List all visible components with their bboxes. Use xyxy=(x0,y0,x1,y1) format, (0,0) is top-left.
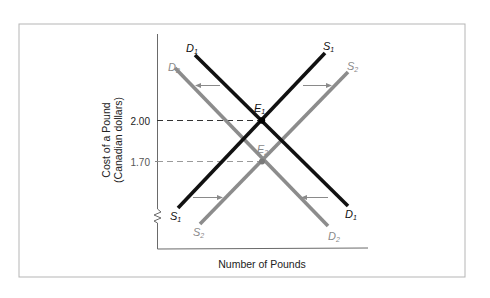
chart-frame xyxy=(19,24,465,277)
label-d2-bottom: D2 xyxy=(328,230,340,243)
label-e2: E2 xyxy=(257,143,268,156)
supply-curve-s2 xyxy=(200,72,348,224)
y-axis-title-line1: Cost of a Pound xyxy=(100,102,112,177)
axis-break-icon xyxy=(154,209,161,223)
tick-label-1-70: 1.70 xyxy=(131,157,151,168)
label-s2-bottom: S2 xyxy=(193,226,204,239)
demand-curve-d2 xyxy=(175,68,328,226)
label-e1: E1 xyxy=(254,102,265,115)
label-d2: D2 xyxy=(168,61,180,74)
axes xyxy=(154,34,368,249)
label-s1-bottom: S1 xyxy=(170,210,181,223)
supply-demand-chart: 2.00 1.70 D1 D2 S1 S2 S1 S2 D1 D2 E1 E2 … xyxy=(0,0,490,298)
label-s2-top: S2 xyxy=(347,60,358,73)
y-axis-title-line2: (Canadian dollars) xyxy=(112,97,124,183)
label-s1-top: S1 xyxy=(323,40,334,53)
supply-curve-s1 xyxy=(178,53,325,208)
demand-curve-d1 xyxy=(195,55,348,206)
tick-label-2-00: 2.00 xyxy=(131,116,151,127)
x-axis-title: Number of Pounds xyxy=(218,258,306,270)
equilibrium-point-e1 xyxy=(259,117,265,123)
label-d1: D1 xyxy=(186,42,198,55)
label-d1-bottom: D1 xyxy=(345,208,357,221)
x-axis xyxy=(158,248,369,249)
equilibrium-point-e2 xyxy=(259,159,265,165)
